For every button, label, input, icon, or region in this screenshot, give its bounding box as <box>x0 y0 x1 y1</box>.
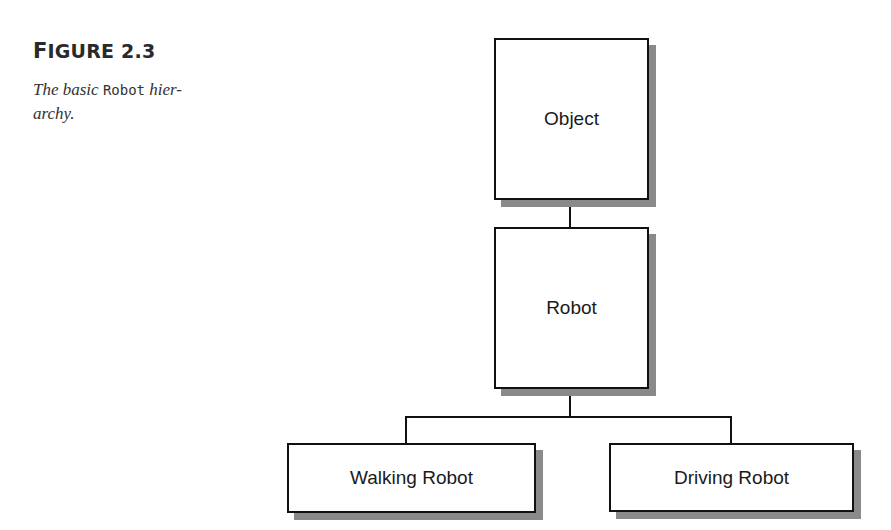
edge-object-robot <box>569 199 571 229</box>
node-object-label: Object <box>544 108 599 130</box>
caption-text-before: The basic <box>33 80 103 99</box>
node-robot-label: Robot <box>546 297 597 319</box>
caption-code: Robot <box>103 82 145 98</box>
figure-label: FIGURE 2.3 <box>33 39 155 63</box>
figure-label-rest: IGURE 2.3 <box>48 40 156 62</box>
edge-to-driving-robot <box>730 416 732 444</box>
figure-label-initial: F <box>33 39 48 63</box>
node-robot: Robot <box>494 227 649 389</box>
node-driving-robot-label: Driving Robot <box>674 467 789 489</box>
node-driving-robot: Driving Robot <box>609 443 854 512</box>
edge-to-walking-robot <box>405 416 407 444</box>
node-walking-robot-label: Walking Robot <box>350 467 473 489</box>
edge-robot-trunk <box>569 388 571 418</box>
node-walking-robot: Walking Robot <box>287 443 536 513</box>
node-object: Object <box>494 38 649 200</box>
figure-caption: The basic Robot hier-archy. <box>33 78 223 125</box>
edge-horizontal-bar <box>405 416 732 418</box>
